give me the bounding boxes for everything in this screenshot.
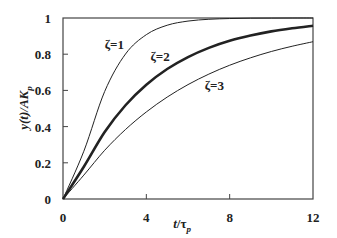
y-tick-label: 0.2 [35,156,51,171]
x-axis-label: t/τp [173,216,191,234]
y-tick-label: 0.6 [35,83,52,98]
y-tick-label: 0 [45,192,52,207]
x-tick-label: 8 [226,210,233,225]
plot-frame [63,18,313,199]
y-tick-label: 1 [45,11,52,26]
x-tick-label: 12 [307,210,320,225]
curve-label-zeta-1: ζ=1 [105,37,124,52]
curve-label-zeta-2: ζ=2 [151,49,170,64]
x-tick-label: 4 [143,210,150,225]
y-tick-label: 0.4 [35,120,52,135]
x-tick-label: 0 [60,210,67,225]
y-axis-label: y(t)/AKp [16,86,34,132]
y-tick-label: 0.8 [35,47,52,62]
line-chart: 04812 00.20.40.60.81 ζ=1ζ=2ζ=3 t/τp y(t)… [0,0,337,238]
curve-label-zeta-3: ζ=3 [205,78,225,93]
